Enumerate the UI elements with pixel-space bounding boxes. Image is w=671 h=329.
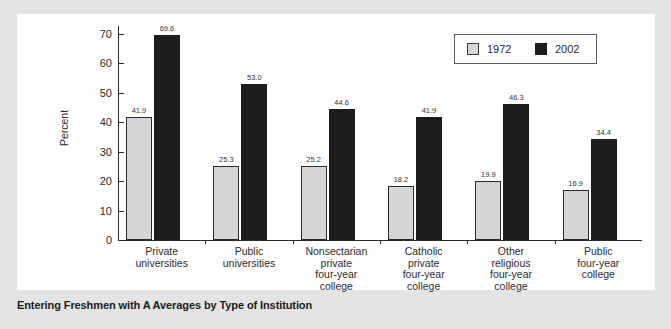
y-axis-tick-labels: 010203040506070 xyxy=(84,34,112,240)
category-separator-tick xyxy=(467,240,468,244)
bar-group: 18.241.9 xyxy=(380,34,467,240)
bar-group: 25.244.6 xyxy=(293,34,380,240)
bar-value-label: 46.3 xyxy=(501,93,531,102)
legend-item-2002: 2002 xyxy=(535,43,579,55)
category-label: Publicuniversities xyxy=(205,246,293,269)
bar-2002 xyxy=(416,117,442,240)
bar-2002 xyxy=(329,109,355,240)
bar-value-label: 34.4 xyxy=(589,128,619,137)
bar-2002 xyxy=(241,84,267,240)
bar-1972 xyxy=(126,117,152,240)
bar-2002 xyxy=(154,35,180,240)
y-axis-tick-label: 50 xyxy=(84,87,112,99)
bar-group: 19.946.3 xyxy=(467,34,554,240)
chart-panel: 010203040506070 Percent 41.969.625.353.0… xyxy=(17,14,655,290)
bar-value-label: 16.9 xyxy=(561,179,591,188)
bar-value-label: 53.0 xyxy=(239,73,269,82)
category-label-line: Catholic xyxy=(380,246,468,258)
category-label-line: college xyxy=(292,281,380,293)
y-axis-tick-label: 20 xyxy=(84,175,112,187)
category-label-line: four-year xyxy=(467,269,555,281)
bar-2002 xyxy=(591,139,617,240)
figure-caption: Entering Freshmen with A Averages by Typ… xyxy=(17,299,312,311)
bar-2002 xyxy=(503,104,529,240)
bar-value-label: 18.2 xyxy=(386,175,416,184)
figure-container: 010203040506070 Percent 41.969.625.353.0… xyxy=(0,0,671,329)
category-label-line: college xyxy=(380,281,468,293)
category-label-line: college xyxy=(554,269,642,281)
category-label-line: college xyxy=(467,281,555,293)
bar-value-label: 41.9 xyxy=(124,106,154,115)
legend-item-1972: 1972 xyxy=(467,43,511,55)
y-axis-tick-label: 30 xyxy=(84,146,112,158)
category-separator-tick xyxy=(555,240,556,244)
bar-1972 xyxy=(563,190,589,240)
category-label: Publicfour-yearcollege xyxy=(554,246,642,281)
y-axis-title: Percent xyxy=(58,110,70,146)
category-label-line: four-year xyxy=(292,269,380,281)
bar-value-label: 19.9 xyxy=(473,170,503,179)
category-separator-tick xyxy=(380,240,381,244)
category-label-line: universities xyxy=(118,258,206,270)
y-axis-tick-label: 70 xyxy=(84,28,112,40)
category-label-line: universities xyxy=(205,258,293,270)
category-label: Privateuniversities xyxy=(118,246,206,269)
legend-label-2002: 2002 xyxy=(555,43,579,55)
category-label-line: Public xyxy=(554,246,642,258)
category-label: Otherreligiousfour-yearcollege xyxy=(467,246,555,292)
y-axis-tick-label: 0 xyxy=(84,234,112,246)
category-label-line: Private xyxy=(118,246,206,258)
category-label-line: Other xyxy=(467,246,555,258)
y-axis-tick xyxy=(119,240,124,241)
category-label: Catholicprivatefour-yearcollege xyxy=(380,246,468,292)
bar-value-label: 44.6 xyxy=(327,98,357,107)
bar-value-label: 25.3 xyxy=(211,155,241,164)
bar-1972 xyxy=(475,181,501,240)
category-separator-tick xyxy=(293,240,294,244)
legend-swatch-icon-2002 xyxy=(535,43,547,55)
bar-group: 16.934.4 xyxy=(555,34,642,240)
category-label: Nonsectarianprivatefour-yearcollege xyxy=(292,246,380,292)
legend-swatch-icon-1972 xyxy=(467,43,479,55)
bar-1972 xyxy=(301,166,327,240)
bar-value-label: 41.9 xyxy=(414,106,444,115)
bar-value-label: 69.6 xyxy=(152,24,182,33)
category-label-line: four-year xyxy=(380,269,468,281)
y-axis-tick-label: 10 xyxy=(84,205,112,217)
category-label-line: Public xyxy=(205,246,293,258)
bar-1972 xyxy=(213,166,239,240)
y-axis-tick-label: 60 xyxy=(84,57,112,69)
y-axis-tick-label: 40 xyxy=(84,116,112,128)
bar-group: 41.969.6 xyxy=(118,34,205,240)
legend-label-1972: 1972 xyxy=(487,43,511,55)
bar-group: 25.353.0 xyxy=(205,34,292,240)
category-label-line: Nonsectarian xyxy=(292,246,380,258)
plot-area: 010203040506070 Percent 41.969.625.353.0… xyxy=(118,34,642,240)
bar-value-label: 25.2 xyxy=(299,155,329,164)
category-separator-tick xyxy=(205,240,206,244)
chart-legend: 1972 2002 xyxy=(454,34,597,64)
bar-1972 xyxy=(388,186,414,240)
